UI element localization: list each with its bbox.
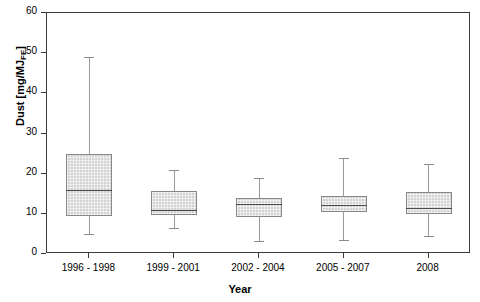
whisker-cap-upper — [254, 178, 264, 179]
y-axis-tick-label: 20 — [26, 166, 37, 177]
box-iqr-rect — [236, 198, 282, 217]
box-iqr-rect — [66, 154, 112, 216]
whisker-lower — [343, 212, 344, 240]
box-iqr-rect — [406, 192, 452, 214]
median-line — [321, 205, 367, 206]
whisker-cap-lower — [169, 228, 179, 229]
x-axis-title: Year — [0, 283, 480, 295]
x-axis-tick-mark — [88, 253, 89, 258]
x-axis-tick-mark — [258, 253, 259, 258]
y-axis-tick-mark — [41, 253, 46, 254]
y-axis-tick: 50 — [0, 52, 46, 53]
whisker-cap-lower — [84, 234, 94, 235]
y-axis-tick: 0 — [0, 253, 46, 254]
y-axis-tick-label: 60 — [26, 5, 37, 16]
median-line — [236, 204, 282, 205]
y-axis-tick-label: 40 — [26, 85, 37, 96]
whisker-cap-upper — [424, 164, 434, 165]
whisker-cap-lower — [254, 241, 264, 242]
box-plot-chart: Dust [mg/MJFE] Year 0102030405060 1996 -… — [0, 0, 480, 302]
whisker-upper — [343, 158, 344, 196]
whisker-cap-upper — [339, 158, 349, 159]
whisker-cap-upper — [169, 170, 179, 171]
whisker-cap-lower — [339, 240, 349, 241]
y-axis-tick: 40 — [0, 92, 46, 93]
x-axis-tick-label: 2008 — [378, 262, 478, 273]
whisker-lower — [428, 214, 429, 236]
x-axis-tick-mark — [343, 253, 344, 258]
y-axis-tick-label: 30 — [26, 126, 37, 137]
median-line — [151, 210, 197, 211]
y-axis-tick: 20 — [0, 173, 46, 174]
whisker-upper — [174, 170, 175, 191]
box-iqr-rect — [151, 191, 197, 215]
y-axis-tick: 10 — [0, 213, 46, 214]
x-axis-tick-mark — [173, 253, 174, 258]
y-axis-tick: 30 — [0, 133, 46, 134]
whisker-upper — [428, 164, 429, 192]
x-axis-tick-mark — [428, 253, 429, 258]
whisker-upper — [89, 57, 90, 153]
y-axis-title: Dust [mg/MJFE] — [14, 0, 26, 176]
median-line — [66, 190, 112, 191]
y-axis-tick-label: 0 — [31, 246, 37, 257]
whisker-lower — [259, 217, 260, 241]
median-line — [406, 208, 452, 209]
plot-area — [46, 12, 470, 253]
whisker-cap-lower — [424, 236, 434, 237]
y-axis-tick: 60 — [0, 12, 46, 13]
whisker-upper — [259, 178, 260, 198]
y-axis-tick-label: 50 — [26, 45, 37, 56]
y-axis-tick-label: 10 — [26, 206, 37, 217]
whisker-cap-upper — [84, 57, 94, 58]
whisker-lower — [89, 216, 90, 234]
whisker-lower — [174, 215, 175, 228]
